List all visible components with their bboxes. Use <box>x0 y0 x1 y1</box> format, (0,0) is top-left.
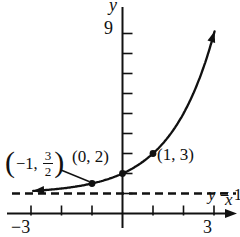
point-dot <box>150 150 157 157</box>
leader-line <box>61 170 89 182</box>
point-label-1-3: (1, 3) <box>157 146 194 164</box>
fraction-denominator: 2 <box>45 164 52 178</box>
asymptote-label: y = 1 <box>191 168 240 222</box>
asymptote-label-variable: y <box>208 185 216 204</box>
x-tick-label-neg3: −3 <box>11 218 30 237</box>
fraction-three-halves: 3 2 <box>43 149 54 178</box>
close-paren: ) <box>54 147 64 177</box>
point-label-neg1-text: −1, <box>15 155 42 172</box>
y-axis-label: y <box>109 0 117 15</box>
curve-arrowhead-upper-right <box>208 31 216 43</box>
fraction-numerator: 3 <box>43 149 54 164</box>
point-dot <box>119 170 126 177</box>
point-label-0-2: (0, 2) <box>72 148 109 166</box>
y-tick-label-9: 9 <box>104 19 113 38</box>
exponential-graph-figure: y 9 x −3 3 ( −1, 3 2 ) (0, 2) (1, 3) y =… <box>0 0 240 237</box>
point-dot <box>89 180 96 187</box>
point-label-neg1-three-halves: ( −1, 3 2 ) <box>5 146 64 182</box>
open-paren: ( <box>5 147 15 177</box>
asymptote-label-value: = 1 <box>216 185 240 204</box>
